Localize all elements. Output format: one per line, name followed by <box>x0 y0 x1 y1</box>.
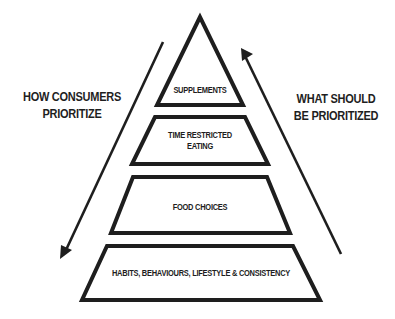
tier-time-restricted-line1: TIME RESTRICTED <box>156 130 244 141</box>
tier-time-restricted-line2: EATING <box>156 141 244 152</box>
tier-time-restricted-label: TIME RESTRICTED EATING <box>156 130 244 152</box>
tier-habits-label: HABITS, BEHAVIOURS, LIFESTYLE & CONSISTE… <box>100 268 302 279</box>
arrow-up-icon <box>241 48 341 254</box>
left-label-line1: HOW CONSUMERS <box>12 89 132 106</box>
right-label-line2: BE PRIORITIZED <box>285 108 387 125</box>
right-label-line1: WHAT SHOULD <box>285 91 387 108</box>
tier-food-choices-text: FOOD CHOICES <box>156 202 244 213</box>
tier-food-choices-label: FOOD CHOICES <box>156 202 244 213</box>
tier-habits-text: HABITS, BEHAVIOURS, LIFESTYLE & CONSISTE… <box>100 268 302 279</box>
tier-supplements-text: SUPPLEMENTS <box>165 85 235 96</box>
left-label: HOW CONSUMERS PRIORITIZE <box>12 89 132 123</box>
left-label-line2: PRIORITIZE <box>12 106 132 123</box>
right-label: WHAT SHOULD BE PRIORITIZED <box>285 91 387 125</box>
tier-supplements-label: SUPPLEMENTS <box>165 85 235 96</box>
